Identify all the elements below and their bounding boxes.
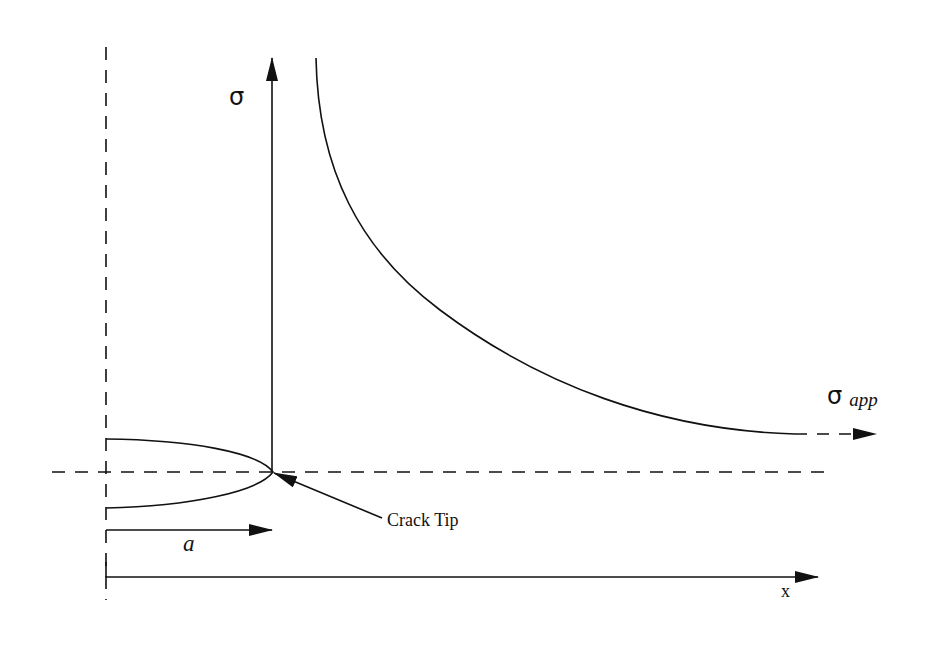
stress-axis-label: σ [229, 85, 244, 109]
x-axis-label: x [781, 582, 790, 600]
crack-tip-pointer-arrow [274, 473, 382, 518]
crack-length-label: a [183, 532, 195, 555]
crack-tip-stress-diagram [0, 0, 932, 646]
crack-profile [106, 439, 273, 508]
stress-distribution-curve [316, 58, 795, 434]
applied-stress-subscript: app [849, 389, 878, 410]
crack-tip-label: Crack Tip [387, 511, 459, 529]
applied-stress-symbol: σ [827, 382, 842, 410]
applied-stress-label: σapp [827, 384, 878, 409]
